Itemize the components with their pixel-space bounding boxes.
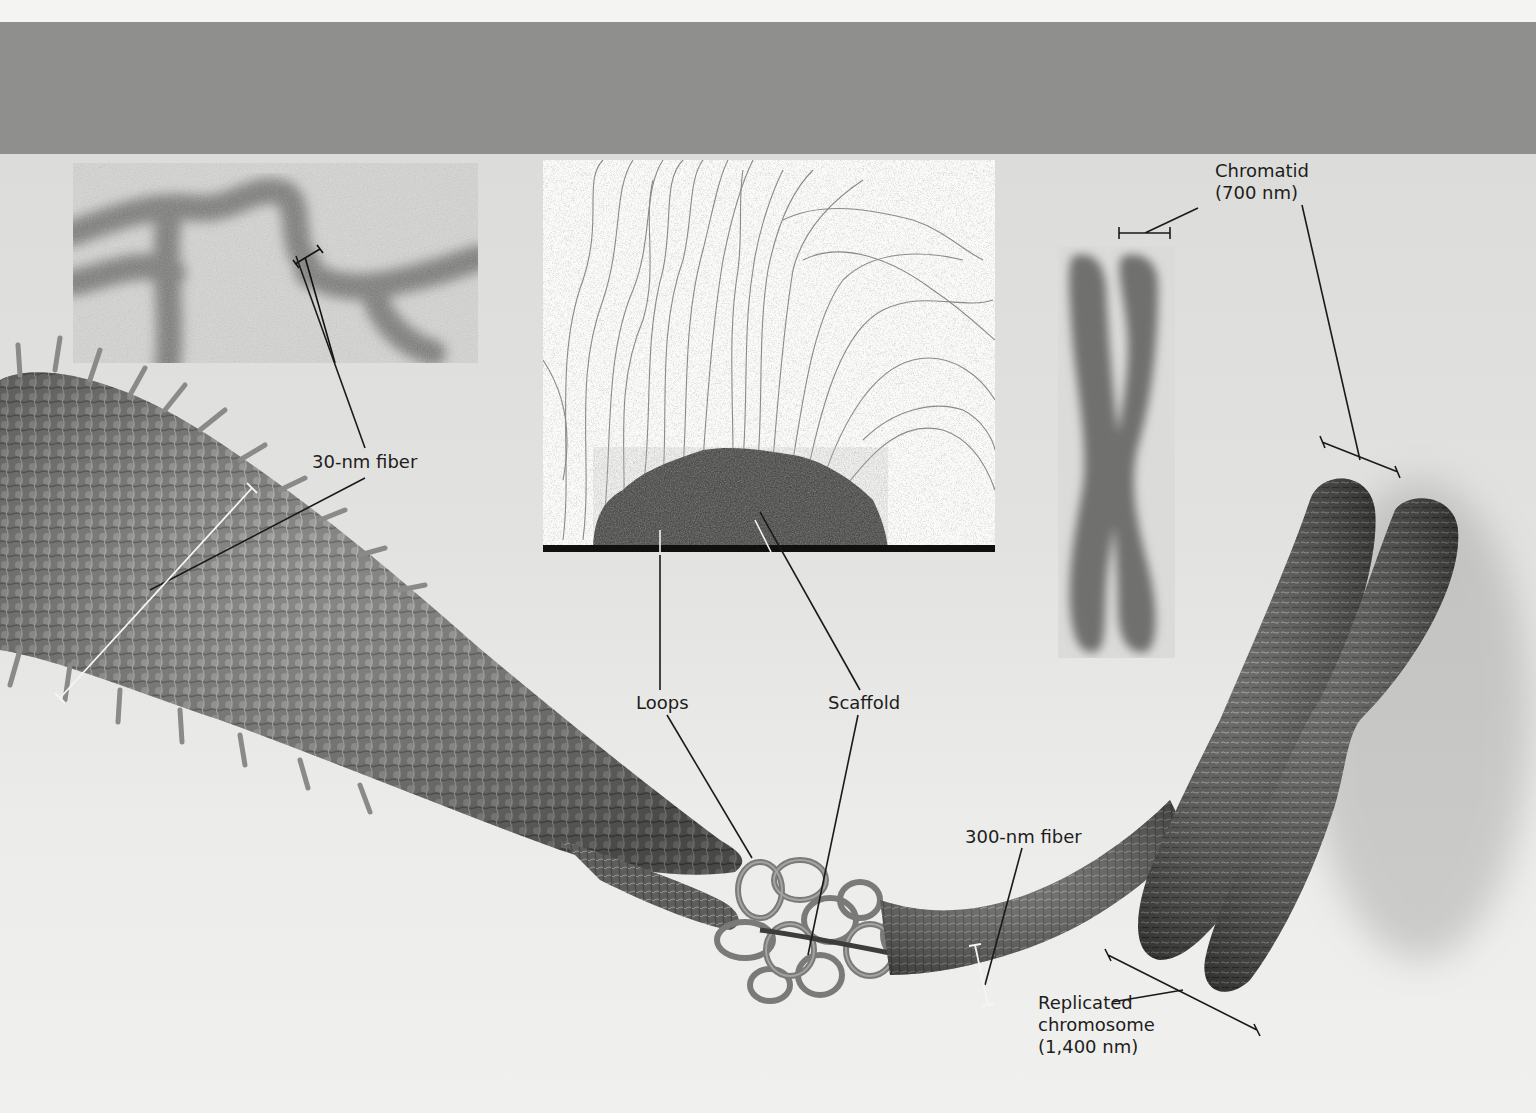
- label-300nm-fiber: 300-nm fiber: [965, 826, 1082, 848]
- label-replicated-line2: chromosome: [1038, 1014, 1155, 1036]
- label-replicated-line1: Replicated: [1038, 992, 1155, 1014]
- label-scaffold: Scaffold: [828, 692, 900, 714]
- label-loops: Loops: [636, 692, 689, 714]
- label-30nm-fiber: 30-nm fiber: [312, 451, 417, 473]
- label-replicated-size: (1,400 nm): [1038, 1036, 1155, 1058]
- label-chromatid: Chromatid (700 nm): [1215, 160, 1309, 204]
- label-replicated-chromosome: Replicated chromosome (1,400 nm): [1038, 992, 1155, 1058]
- label-chromatid-name: Chromatid: [1215, 160, 1309, 182]
- label-chromatid-size: (700 nm): [1215, 182, 1309, 204]
